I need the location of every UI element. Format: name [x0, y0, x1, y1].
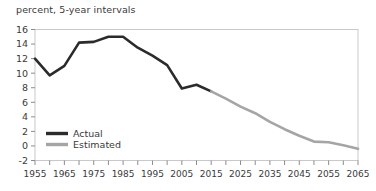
x-tick-label: 2025 — [229, 169, 252, 179]
legend-label-actual: Actual — [73, 128, 103, 139]
x-tick-label: 1985 — [112, 169, 135, 179]
x-tick-label: 2065 — [347, 169, 370, 179]
y-tick-label: 4 — [22, 111, 28, 122]
x-tick-label: 1965 — [53, 169, 76, 179]
y-tick-label: 16 — [16, 24, 28, 35]
x-tick-label: 2045 — [288, 169, 311, 179]
x-tick-label: 2055 — [317, 169, 340, 179]
y-tick-label: 0 — [22, 140, 28, 151]
x-tick-label: 1955 — [24, 169, 47, 179]
y-tick-label: 14 — [16, 38, 28, 49]
y-tick-label: 10 — [16, 68, 28, 79]
x-tick-label: 1995 — [141, 169, 164, 179]
y-tick-label: -2 — [19, 155, 28, 166]
y-tick-label: 12 — [16, 53, 28, 64]
y-axis-ticks: 1614121086420-2 — [16, 24, 35, 166]
x-tick-label: 1975 — [82, 169, 105, 179]
legend-label-estimated: Estimated — [73, 139, 121, 150]
x-axis-ticks: 1955196519751985199520052015202520352045… — [24, 161, 370, 179]
y-tick-label: 6 — [22, 97, 28, 108]
x-tick-label: 2035 — [258, 169, 281, 179]
series-line-estimated — [211, 91, 358, 149]
line-chart: 1614121086420-2 195519651975198519952005… — [0, 0, 376, 191]
x-tick-label: 2015 — [200, 169, 223, 179]
x-tick-label: 2005 — [170, 169, 193, 179]
y-tick-label: 8 — [22, 82, 28, 93]
series-line-actual — [35, 37, 211, 92]
y-tick-label: 2 — [22, 126, 28, 137]
chart-container: percent, 5-year intervals 1614121086420-… — [0, 0, 376, 191]
chart-legend: ActualEstimated — [46, 128, 121, 150]
